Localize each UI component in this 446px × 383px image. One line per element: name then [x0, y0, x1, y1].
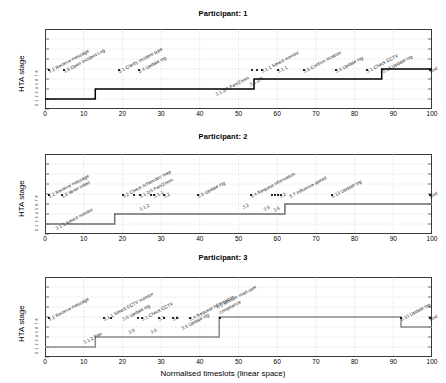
x-tick-label: 30 — [157, 110, 164, 117]
y-axis-tick-labels: 0 1 2 3 4 5 6 7 8 — [36, 195, 40, 231]
event-marker — [150, 194, 152, 196]
x-tick-label: 60 — [274, 358, 281, 365]
event-marker — [251, 69, 253, 71]
event-marker — [137, 317, 139, 319]
participant-3-panel: Participant: 3 HTA stage 0 1 2 3 4 5 6 7… — [0, 252, 446, 383]
x-tick-label: 90 — [390, 358, 397, 365]
x-tick-label: 20 — [119, 358, 126, 365]
y-axis-label: HTA stage — [17, 305, 26, 342]
x-tick-label: 90 — [390, 110, 397, 117]
x-tick-label: 70 — [312, 235, 319, 242]
y-axis-label: HTA stage — [17, 180, 26, 217]
event-marker — [256, 69, 258, 71]
panel-2-plot-svg — [45, 154, 432, 234]
hta-stage-figure: Participant: 1 HTA stage 0 1 2 3 4 5 6 7… — [0, 0, 446, 383]
event-marker — [133, 194, 135, 196]
x-tick-label: 0 — [43, 110, 47, 117]
x-tick-label: 30 — [157, 358, 164, 365]
x-tick-label: 80 — [351, 358, 358, 365]
panel-title: Participant: 1 — [0, 9, 446, 18]
panel-title: Participant: 3 — [0, 253, 446, 262]
x-tick-label: 50 — [235, 235, 242, 242]
x-tick-label: 20 — [119, 235, 126, 242]
x-tick-label: 10 — [80, 235, 87, 242]
x-tick-label: 60 — [274, 235, 281, 242]
event-marker — [274, 194, 276, 196]
x-tick-label: 20 — [119, 110, 126, 117]
x-tick-label: 40 — [196, 235, 203, 242]
x-axis-label: Normalised timeslots (linear space) — [0, 369, 446, 378]
panel-title: Participant: 2 — [0, 132, 446, 141]
y-axis-tick-labels: 0 1 2 3 4 5 6 7 8 — [36, 70, 40, 106]
x-tick-label: 100 — [427, 235, 438, 242]
x-tick-label: 50 — [235, 358, 242, 365]
x-tick-label: 70 — [312, 358, 319, 365]
y-axis-tick-labels: 0 1 2 3 4 5 6 7 8 — [36, 318, 40, 354]
x-tick-label: 70 — [312, 110, 319, 117]
x-tick-label: 90 — [390, 235, 397, 242]
x-tick-label: 40 — [196, 358, 203, 365]
participant-2-panel: Participant: 2 HTA stage 0 1 2 3 4 5 6 7… — [0, 125, 446, 252]
y-axis-label: HTA stage — [17, 55, 26, 92]
x-tick-label: 30 — [157, 235, 164, 242]
participant-1-panel: Participant: 1 HTA stage 0 1 2 3 4 5 6 7… — [0, 0, 446, 125]
x-tick-label: 80 — [351, 110, 358, 117]
event-marker — [271, 194, 273, 196]
x-tick-label: 10 — [80, 358, 87, 365]
x-tick-label: 0 — [43, 358, 47, 365]
event-marker — [219, 317, 221, 319]
x-tick-label: 60 — [274, 110, 281, 117]
x-tick-label: 10 — [80, 110, 87, 117]
x-tick-label: 80 — [351, 235, 358, 242]
x-tick-label: 40 — [196, 110, 203, 117]
x-tick-label: 0 — [43, 235, 47, 242]
x-tick-label: 100 — [427, 110, 438, 117]
x-tick-label: 50 — [235, 110, 242, 117]
grid-lines — [45, 154, 432, 234]
x-tick-label: 100 — [427, 358, 438, 365]
